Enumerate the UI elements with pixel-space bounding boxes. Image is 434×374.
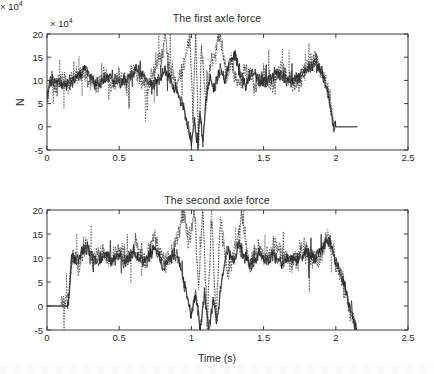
svg-text:-5: -5: [35, 145, 43, 156]
svg-text:-5: -5: [35, 325, 43, 336]
svg-text:2: 2: [333, 332, 338, 343]
svg-text:10: 10: [32, 75, 43, 86]
svg-text:20: 20: [32, 205, 43, 216]
svg-text:2.5: 2.5: [401, 152, 414, 163]
subplot-2-canvas: 00.511.522.520151050-5: [0, 180, 434, 374]
exponent-base: × 10: [0, 1, 19, 12]
svg-text:0.5: 0.5: [113, 152, 126, 163]
figure-two-axle-force-plots: The first axle force × 104 N 00.511.522.…: [0, 0, 434, 374]
svg-text:5: 5: [38, 98, 43, 109]
scan-artifact-strip: [0, 365, 434, 374]
svg-text:1.5: 1.5: [257, 152, 270, 163]
svg-text:0: 0: [44, 152, 49, 163]
svg-text:5: 5: [38, 277, 43, 288]
exponent-power: 4: [19, 0, 23, 7]
svg-text:0: 0: [38, 301, 43, 312]
subplot-second-axle-force: The second axle force 00.511.522.5201510…: [0, 180, 434, 374]
svg-text:2: 2: [333, 152, 338, 163]
svg-text:10: 10: [32, 253, 43, 264]
subplot-1-canvas: 00.511.522.520151050-5: [0, 0, 434, 180]
svg-text:2.5: 2.5: [401, 332, 414, 343]
svg-text:0: 0: [44, 332, 49, 343]
svg-text:1.5: 1.5: [257, 332, 270, 343]
svg-text:20: 20: [32, 29, 43, 40]
svg-text:0: 0: [38, 121, 43, 132]
subplot-2-y-exponent: × 104: [0, 0, 23, 12]
svg-text:0.5: 0.5: [113, 332, 126, 343]
x-axis-label: Time (s): [0, 352, 434, 364]
svg-text:15: 15: [32, 229, 43, 240]
svg-text:15: 15: [32, 52, 43, 63]
subplot-first-axle-force: The first axle force × 104 N 00.511.522.…: [0, 0, 434, 180]
svg-text:1: 1: [189, 152, 194, 163]
svg-text:1: 1: [189, 332, 194, 343]
